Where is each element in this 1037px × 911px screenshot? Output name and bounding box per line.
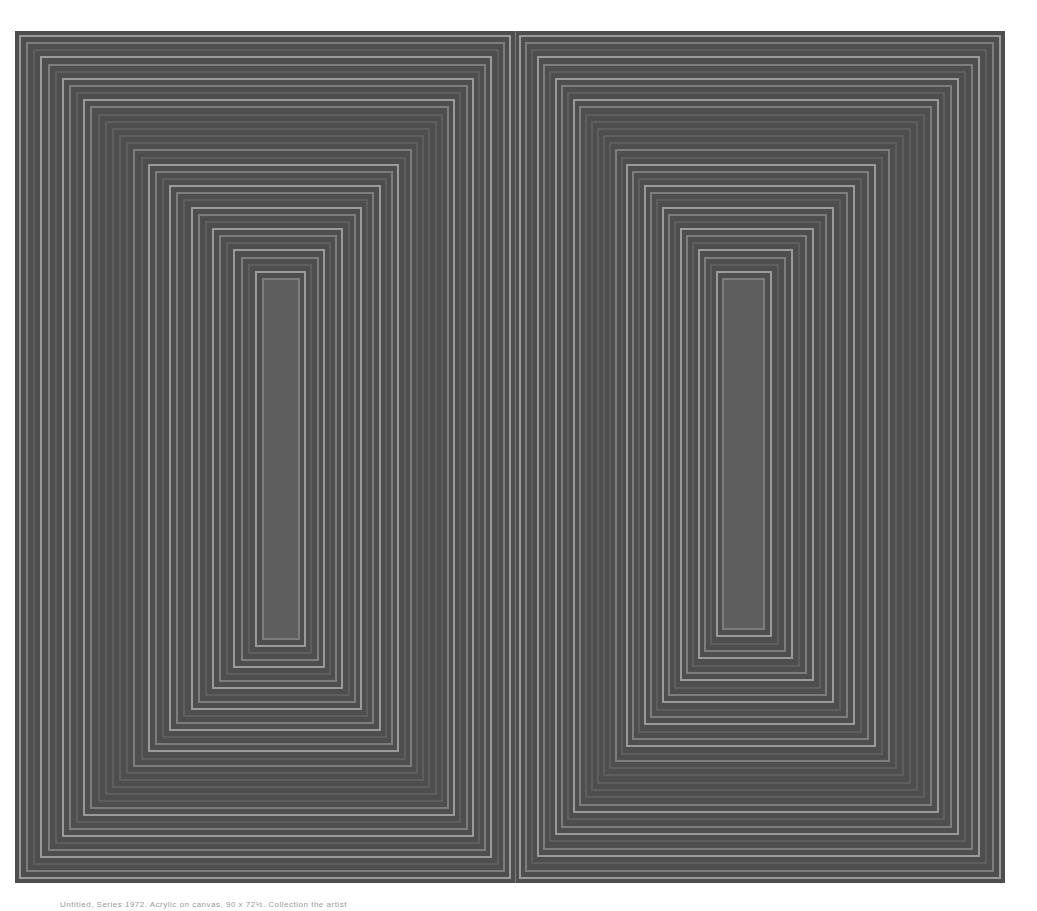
right-panel [515,31,1005,883]
left-panel [15,31,515,883]
caption: Untitled, Series 1972. Acrylic on canvas… [60,900,347,910]
painting [15,31,1005,883]
stripe-band [262,278,300,640]
stripe-band [722,278,765,630]
panel-divider [515,31,516,883]
